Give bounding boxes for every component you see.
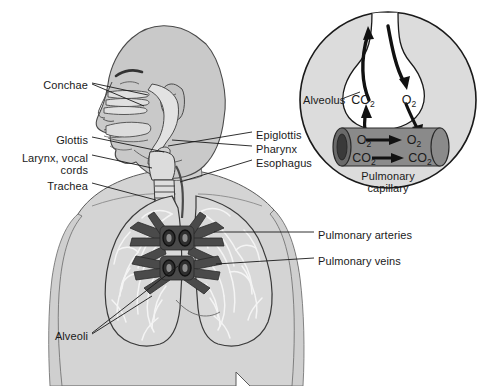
label-pulmonary-capillary-line1: Pulmonary bbox=[338, 170, 438, 183]
label-alveolus: Alveolus bbox=[303, 94, 345, 107]
label-larynx-vocal: Larynx, vocal bbox=[4, 152, 88, 165]
label-alveoli: Alveoli bbox=[8, 330, 88, 343]
label-conchae: Conchae bbox=[8, 79, 88, 92]
label-esophagus: Esophagus bbox=[256, 157, 312, 170]
label-pulmonary-capillary-line2: capillary bbox=[338, 182, 438, 195]
label-glottis: Glottis bbox=[8, 134, 88, 147]
label-pulmonary-veins: Pulmonary veins bbox=[318, 255, 401, 268]
label-epiglottis: Epiglottis bbox=[256, 129, 302, 142]
label-pharynx: Pharynx bbox=[256, 143, 297, 156]
label-trachea: Trachea bbox=[8, 180, 88, 193]
label-pulmonary-arteries: Pulmonary arteries bbox=[318, 229, 412, 242]
respiratory-diagram-figure: CO2 O2 O2 O2 CO2 CO2 Conchae Glottis Lar… bbox=[0, 0, 483, 386]
label-vocal-cords: cords bbox=[4, 164, 88, 177]
